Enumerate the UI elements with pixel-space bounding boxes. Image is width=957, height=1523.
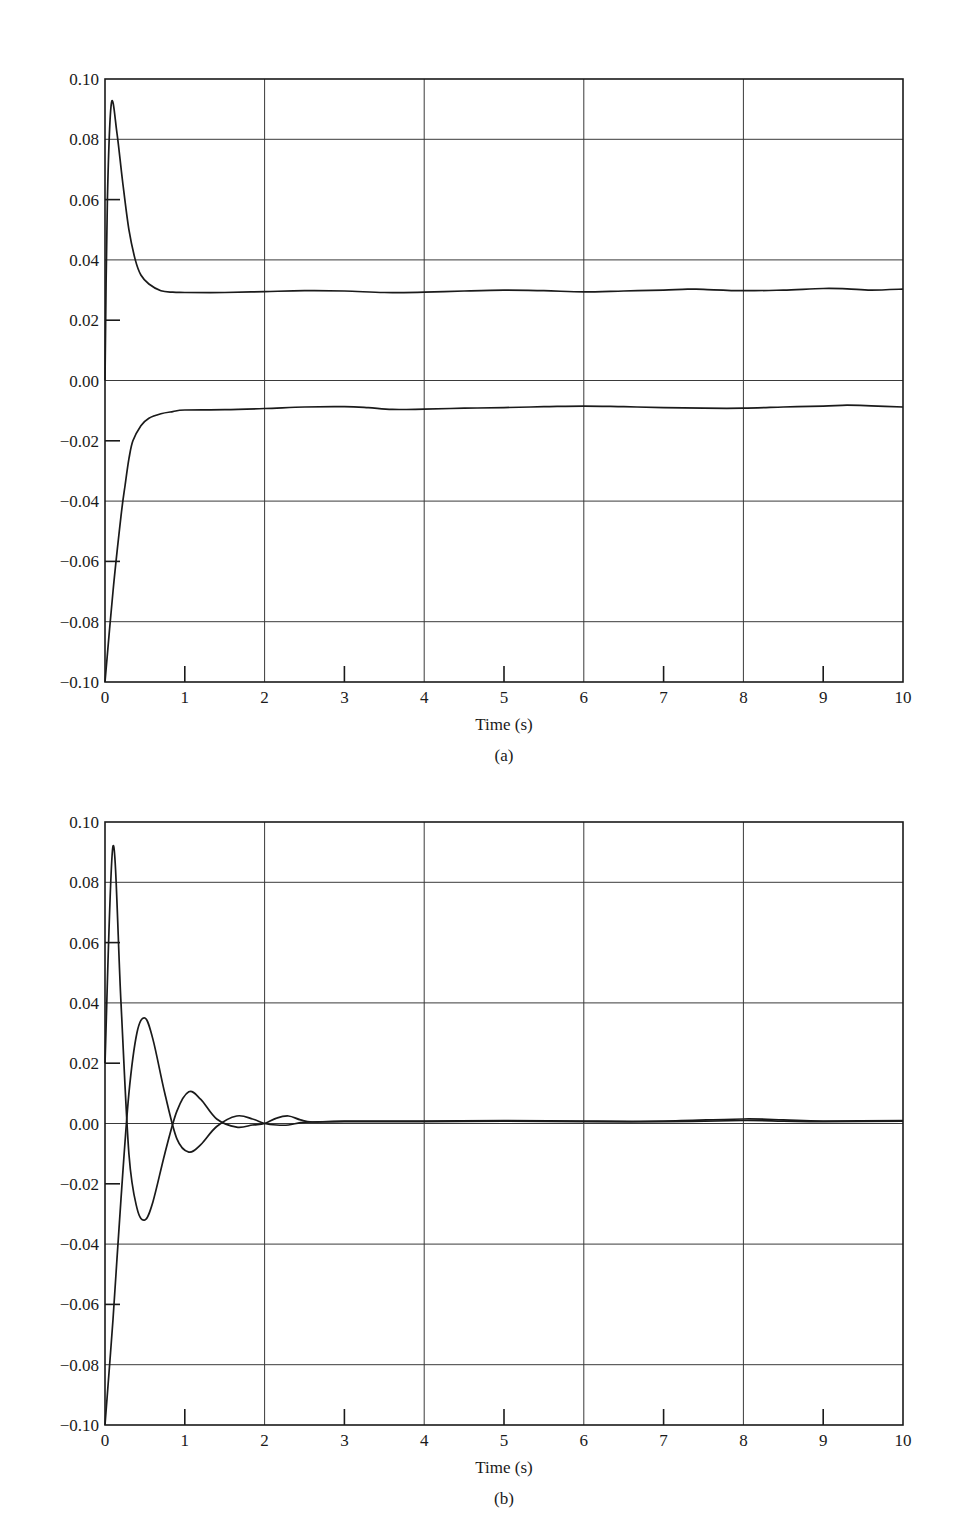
y-tick-label: 0.08	[69, 873, 99, 892]
x-tick-label: 9	[819, 1431, 828, 1450]
axis-ticks	[105, 943, 823, 1425]
y-tick-label: 0.02	[69, 1054, 99, 1073]
x-tick-label: 0	[101, 1431, 110, 1450]
y-tick-label: −0.10	[60, 1416, 99, 1435]
series-line	[105, 845, 903, 1220]
y-tick-label: 0.06	[69, 934, 99, 953]
x-tick-label: 2	[260, 1431, 269, 1450]
figure-caption: (b)	[494, 1489, 514, 1508]
x-tick-label: 8	[739, 1431, 748, 1450]
x-tick-label: 10	[895, 1431, 912, 1450]
x-tick-label: 3	[340, 1431, 349, 1450]
x-axis-title: Time (s)	[475, 1458, 532, 1477]
y-tick-label: −0.02	[60, 1175, 99, 1194]
y-axis-labels: 0.100.080.060.040.020.00−0.02−0.04−0.06−…	[60, 813, 100, 1435]
y-tick-label: 0.04	[69, 994, 99, 1013]
line-chart-b: 0.100.080.060.040.020.00−0.02−0.04−0.06−…	[0, 0, 957, 1523]
y-tick-label: 0.00	[69, 1115, 99, 1134]
y-tick-label: 0.10	[69, 813, 99, 832]
x-tick-label: 6	[580, 1431, 589, 1450]
x-tick-label: 7	[659, 1431, 668, 1450]
x-tick-label: 1	[181, 1431, 190, 1450]
y-tick-label: −0.08	[60, 1356, 99, 1375]
x-tick-label: 4	[420, 1431, 429, 1450]
x-tick-label: 5	[500, 1431, 509, 1450]
y-tick-label: −0.04	[60, 1235, 100, 1254]
data-series	[105, 845, 903, 1425]
y-tick-label: −0.06	[60, 1295, 99, 1314]
series-line	[105, 1018, 903, 1425]
x-axis-labels: 012345678910	[101, 1431, 912, 1450]
chart-panel-b: 0.100.080.060.040.020.00−0.02−0.04−0.06−…	[0, 0, 957, 1523]
